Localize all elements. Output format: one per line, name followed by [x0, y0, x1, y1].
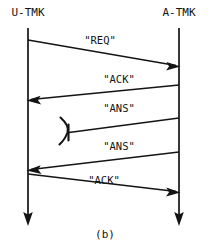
message-loss-arc-icon	[60, 118, 68, 145]
lifeline-u-tmk: U-TMK	[11, 6, 44, 226]
figure-caption: (b)	[95, 228, 115, 241]
message-label-ack-1: "ACK"	[103, 73, 135, 85]
sequence-diagram-figure: U-TMK A-TMK "REQ" "ACK" "ANS"	[0, 0, 215, 246]
message-ans-2: "ANS"	[27, 140, 180, 174]
message-ans-1-lost: "ANS"	[60, 102, 180, 145]
sequence-diagram-canvas: U-TMK A-TMK "REQ" "ACK" "ANS"	[0, 0, 215, 246]
message-label-ans-2: "ANS"	[103, 140, 135, 152]
message-line-ans-1	[69, 118, 179, 133]
message-ack-1: "ACK"	[27, 73, 180, 105]
message-line-ans-2	[31, 152, 179, 169]
lifeline-label-a-tmk: A-TMK	[162, 6, 195, 19]
message-label-ack-2: "ACK"	[88, 174, 120, 186]
message-label-req: "REQ"	[84, 34, 116, 46]
message-ack-2: "ACK"	[28, 174, 181, 196]
message-line-ack-1	[31, 85, 179, 100]
lifeline-label-u-tmk: U-TMK	[11, 6, 44, 19]
message-req: "REQ"	[28, 34, 181, 71]
message-label-ans-1: "ANS"	[103, 102, 135, 114]
lifeline-a-tmk: A-TMK	[162, 6, 195, 226]
